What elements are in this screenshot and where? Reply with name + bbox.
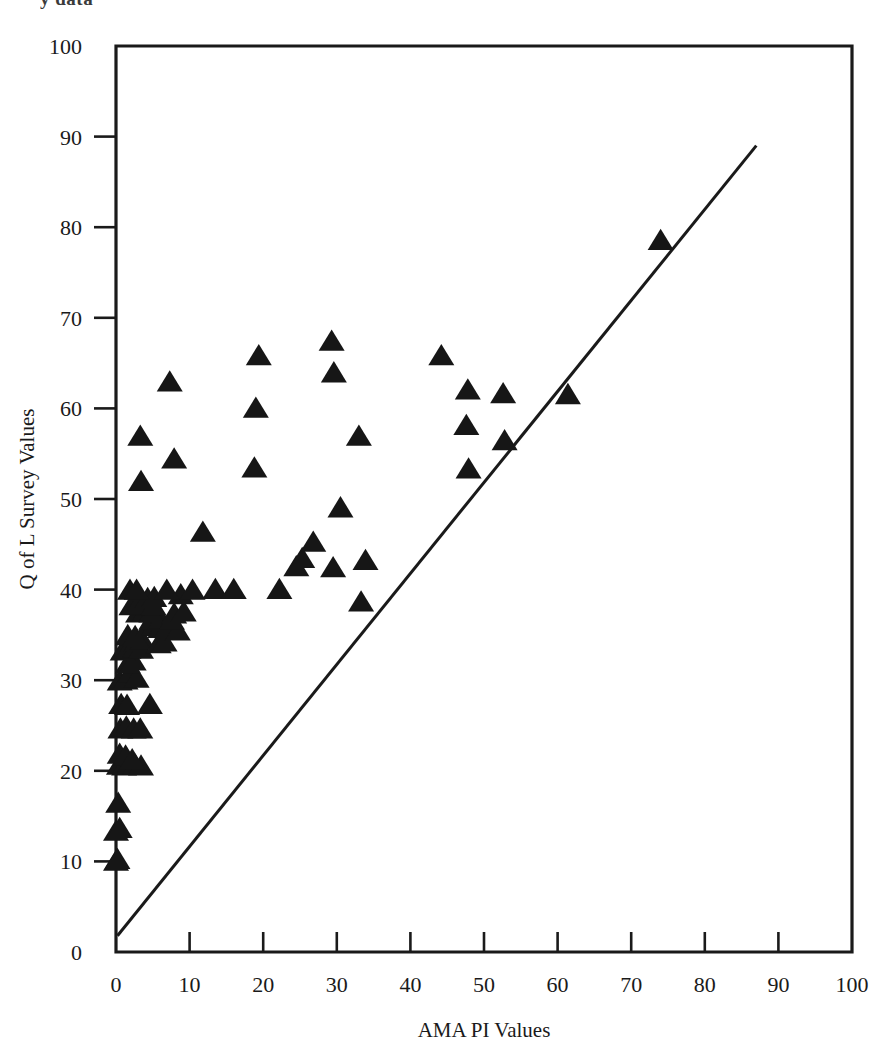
- data-point: [321, 361, 347, 382]
- data-point: [266, 578, 292, 599]
- y-tick-label-100: 100: [49, 34, 82, 59]
- data-point: [241, 456, 267, 477]
- y-tick-label-0: 0: [71, 940, 82, 965]
- y-tick-label-90: 90: [60, 125, 82, 150]
- y-axis-ticks: [94, 137, 116, 862]
- data-point: [246, 344, 272, 365]
- y-tick-label-70: 70: [60, 306, 82, 331]
- data-point: [327, 496, 353, 517]
- y-tick-label-20: 20: [60, 759, 82, 784]
- x-tick-label-60: 60: [547, 972, 569, 997]
- x-axis-title: AMA PI Values: [418, 1018, 551, 1041]
- x-tick-label-0: 0: [111, 972, 122, 997]
- y-axis-title: Q of L Survey Values: [15, 409, 39, 590]
- plot-frame: [116, 46, 852, 952]
- data-point: [319, 329, 345, 350]
- data-point: [456, 457, 482, 478]
- data-point: [490, 382, 516, 403]
- x-tick-label-20: 20: [252, 972, 274, 997]
- x-tick-label-10: 10: [179, 972, 201, 997]
- data-point: [154, 579, 180, 600]
- x-tick-label-30: 30: [326, 972, 348, 997]
- y-tick-label-60: 60: [60, 396, 82, 421]
- data-point: [348, 590, 374, 611]
- data-point: [137, 693, 163, 714]
- axes-box: [116, 46, 852, 952]
- data-point: [128, 470, 154, 491]
- data-point: [453, 414, 479, 435]
- data-point: [107, 817, 133, 838]
- data-point-markers: [103, 229, 674, 871]
- data-point: [243, 396, 269, 417]
- data-point: [555, 383, 581, 404]
- x-tick-label-40: 40: [399, 972, 421, 997]
- y-tick-label-80: 80: [60, 215, 82, 240]
- y-axis-tick-labels: 0102030405060708090100: [49, 34, 82, 965]
- data-point: [428, 344, 454, 365]
- data-point: [157, 370, 183, 391]
- data-point: [492, 429, 518, 450]
- x-tick-label-90: 90: [767, 972, 789, 997]
- data-point: [648, 229, 674, 250]
- data-point: [353, 549, 379, 570]
- data-point: [105, 791, 131, 812]
- axis-titles: AMA PI ValuesQ of L Survey Values: [15, 409, 550, 1041]
- x-axis-ticks: [190, 932, 779, 952]
- scatter-plot: 0102030405060708090100 01020304050607080…: [0, 0, 876, 1041]
- y-tick-label-50: 50: [60, 487, 82, 512]
- x-tick-label-80: 80: [694, 972, 716, 997]
- x-tick-label-70: 70: [620, 972, 642, 997]
- data-point: [455, 378, 481, 399]
- data-point: [104, 848, 130, 869]
- data-point: [161, 447, 187, 468]
- y-tick-label-30: 30: [60, 668, 82, 693]
- x-axis-tick-labels: 0102030405060708090100: [111, 972, 869, 997]
- data-point: [221, 578, 247, 599]
- data-point: [190, 521, 216, 542]
- data-point: [346, 425, 372, 446]
- data-point: [127, 425, 153, 446]
- y-tick-label-40: 40: [60, 578, 82, 603]
- x-tick-label-100: 100: [836, 972, 869, 997]
- figure-container: y data 0102030405060708090100 0102030405…: [0, 0, 876, 1041]
- x-tick-label-50: 50: [473, 972, 495, 997]
- data-point: [300, 531, 326, 552]
- data-point: [320, 556, 346, 577]
- y-tick-label-10: 10: [60, 849, 82, 874]
